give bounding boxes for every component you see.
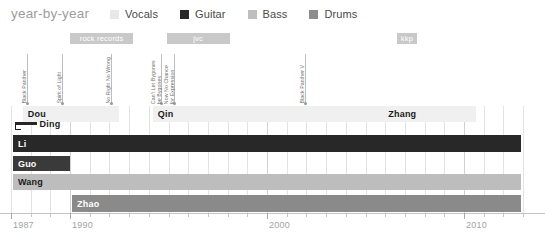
event-label: Now No Chance for Expression [164, 58, 175, 104]
legend-item-drums[interactable]: Drums [309, 8, 357, 20]
axis-tick [385, 213, 386, 217]
axis-tick [523, 213, 524, 217]
label-band-text: rock records [80, 34, 124, 43]
axis-tick [109, 213, 110, 217]
legend-swatch-guitar [180, 10, 189, 19]
axis-tick [287, 213, 288, 217]
segment-label: Dou [23, 109, 46, 119]
axis-tick [208, 213, 209, 217]
event-marker[interactable]: Black Panther V [305, 54, 306, 104]
timeline-row-guitar: Li [0, 135, 545, 152]
event-label: Black Panther V [300, 65, 306, 104]
legend-swatch-drums [309, 10, 318, 19]
axis-tick-label: 1987 [13, 220, 34, 230]
axis-tick [129, 213, 130, 217]
event-marker[interactable]: No Right No Wrong [111, 54, 112, 104]
axis-tick [267, 213, 268, 219]
label-band-kkp[interactable]: kkp [397, 33, 417, 44]
event-marker[interactable]: Spirit of Light [62, 54, 63, 104]
axis-tick [425, 213, 426, 217]
timeline-segment-wang[interactable]: Wang [13, 174, 521, 190]
timeline-row-bass: Wang [0, 174, 545, 190]
event-label: No Right No Wrong [107, 57, 113, 104]
label-band-jvc[interactable]: jvc [167, 33, 230, 44]
axis-tick [11, 213, 12, 219]
axis-tick [464, 213, 465, 219]
axis-tick [306, 213, 307, 217]
timeline-row-vocals-sub: Ding [0, 122, 545, 125]
axis-tick [444, 213, 445, 217]
axis-tick [188, 213, 189, 217]
timeline-row-vocals: DouQinZhang [0, 106, 545, 122]
event-marker[interactable]: Now No Chance for Expression [174, 54, 175, 104]
chart-header: year-by-year VocalsGuitarBassDrums [0, 0, 545, 28]
axis-tick [366, 213, 367, 217]
event-marker[interactable]: Black Panther [27, 54, 28, 104]
axis-tick [31, 213, 32, 217]
legend-label: Drums [324, 8, 357, 20]
event-label: Spirit of Light [58, 72, 64, 104]
axis-tick [149, 213, 150, 217]
axis-tick [405, 213, 406, 217]
axis-tick-label: 1990 [72, 220, 93, 230]
event-label: Black Panther [22, 70, 28, 104]
legend-swatch-vocals [110, 10, 119, 19]
chart-legend: VocalsGuitarBassDrums [110, 7, 379, 21]
timeline-row-drums: Zhao [0, 195, 545, 212]
segment-label: Guo [13, 159, 37, 169]
time-axis: 1987199020002010 [0, 213, 545, 235]
timeline-segment-guo[interactable]: Guo [13, 156, 70, 171]
year-by-year-timeline-chart: year-by-year VocalsGuitarBassDrums rock … [0, 0, 545, 235]
legend-swatch-bass [248, 10, 257, 19]
axis-tick-label: 2010 [466, 220, 487, 230]
timeline-row-guitar-sub: Guo [0, 156, 545, 171]
segment-label: Wang [13, 177, 43, 187]
axis-tick [247, 213, 248, 217]
legend-label: Vocals [125, 8, 158, 20]
event-label: Can't Let Bygones be Bygones [151, 58, 162, 104]
axis-tick [50, 213, 51, 217]
axis-tick [169, 213, 170, 217]
timeline-rows: DouQinZhangDingLiGuoWangZhao [0, 106, 545, 213]
timeline-segment-li[interactable]: Li [13, 135, 521, 152]
label-band-text: kkp [401, 34, 413, 43]
axis-tick [484, 213, 485, 217]
legend-label: Guitar [195, 8, 226, 20]
timeline-segment-qin[interactable]: Qin [153, 106, 383, 122]
axis-tick [503, 213, 504, 217]
timeline-segment-zhao[interactable]: Zhao [72, 195, 521, 212]
segment-label: Zhang [383, 109, 416, 119]
segment-label: Li [13, 139, 26, 149]
axis-tick-label: 2000 [269, 220, 290, 230]
axis-tick [70, 213, 71, 219]
axis-tick [326, 213, 327, 217]
legend-label: Bass [263, 8, 288, 20]
timeline-segment-ding[interactable]: Ding [15, 122, 37, 125]
legend-item-vocals[interactable]: Vocals [110, 8, 158, 20]
legend-item-bass[interactable]: Bass [248, 8, 288, 20]
timeline-segment-zhang[interactable]: Zhang [383, 106, 476, 122]
label-band-text: jvc [193, 34, 203, 43]
event-marker[interactable]: Can't Let Bygones be Bygones [161, 54, 162, 104]
label-band-rock-records[interactable]: rock records [70, 33, 133, 44]
segment-label: Zhao [72, 199, 99, 209]
axis-tick [228, 213, 229, 217]
segment-label: Ding [37, 119, 61, 129]
legend-item-guitar[interactable]: Guitar [180, 8, 226, 20]
axis-tick [90, 213, 91, 217]
page-title: year-by-year [11, 6, 89, 21]
segment-label: Qin [153, 109, 174, 119]
axis-tick [346, 213, 347, 217]
